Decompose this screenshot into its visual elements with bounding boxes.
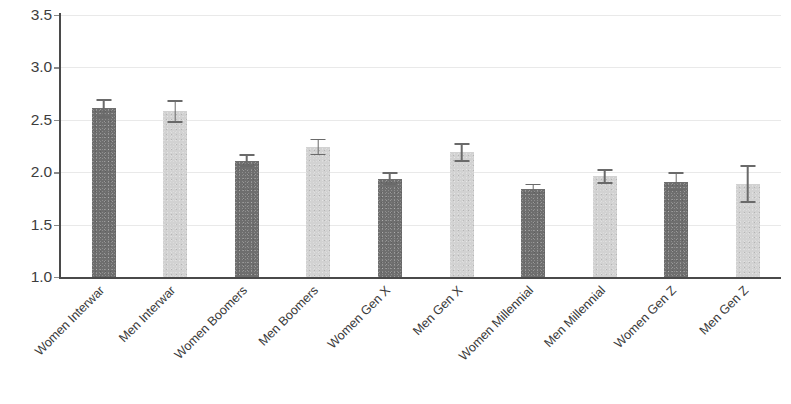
error-bar-cap-bottom (311, 154, 326, 156)
x-axis-label: Women Gen X (326, 284, 393, 351)
error-bar-whisker (676, 172, 678, 191)
bar (163, 111, 187, 277)
error-bar (597, 169, 612, 184)
bar-group (593, 15, 617, 277)
bar (306, 147, 330, 277)
error-bar-cap-top (740, 165, 755, 167)
x-axis-label-text: Men Millennial (542, 284, 608, 350)
error-bar-cap-bottom (239, 165, 254, 167)
y-axis-tick-label: 3.0 (6, 59, 52, 75)
x-axis-label: Women Gen Z (613, 284, 680, 351)
error-bar-cap-top (168, 100, 183, 102)
error-bar (239, 154, 254, 167)
x-axis-label: Men Interwar (117, 284, 178, 345)
bar-group (521, 15, 545, 277)
x-axis-label-text: Women Boomers (172, 284, 250, 362)
error-bar-cap-bottom (382, 183, 397, 185)
error-bar (740, 165, 755, 203)
error-bar (526, 184, 541, 194)
bar (664, 182, 688, 277)
x-axis-label-text: Women Gen Z (613, 284, 680, 351)
bar (521, 189, 545, 277)
error-bar-whisker (103, 99, 105, 118)
error-bar-cap-top (597, 169, 612, 171)
error-bar-cap-top (454, 143, 469, 145)
bar (378, 179, 402, 278)
bar-group (163, 15, 187, 277)
x-axis-label-text: Men Interwar (117, 284, 178, 345)
bar-group (664, 15, 688, 277)
error-bar-cap-top (311, 139, 326, 141)
error-bar-cap-top (669, 172, 684, 174)
x-axis-label: Men Millennial (542, 284, 608, 350)
error-bar-cap-bottom (669, 189, 684, 191)
x-axis-label-text: Women Gen X (326, 284, 393, 351)
x-axis-label-text: Men Gen X (410, 284, 464, 338)
error-bar-cap-bottom (454, 160, 469, 162)
x-axis-label: Women Boomers (172, 284, 250, 362)
error-bar (168, 100, 183, 123)
bar-group (450, 15, 474, 277)
bar (235, 161, 259, 277)
x-axis-label: Men Gen X (410, 284, 464, 338)
error-bar-whisker (174, 100, 176, 123)
y-axis-tick-label: 2.5 (6, 112, 52, 128)
bar-group (736, 15, 760, 277)
x-axis-label-text: Men Boomers (257, 284, 321, 348)
error-bar-whisker (461, 143, 463, 162)
bar (593, 176, 617, 277)
x-axis-line (59, 277, 781, 279)
x-axis-label-text: Men Gen Z (697, 284, 750, 337)
x-axis-label-text: Women Millennial (457, 284, 536, 363)
error-bar (382, 172, 397, 185)
bar-group (92, 15, 116, 277)
y-axis-tick-label: 3.5 (6, 7, 52, 23)
error-bar (96, 99, 111, 118)
error-bar (311, 139, 326, 156)
x-axis-label-text: Women Interwar (32, 284, 106, 358)
error-bar-cap-top (382, 172, 397, 174)
bar-group (235, 15, 259, 277)
bar-group (378, 15, 402, 277)
bar (450, 152, 474, 277)
bar (92, 108, 116, 277)
bars-layer (60, 15, 781, 277)
error-bar-cap-top (526, 184, 541, 186)
error-bar-cap-bottom (597, 182, 612, 184)
x-axis-label: Women Interwar (32, 284, 106, 358)
bar-chart: 3.53.02.52.01.51.0 Women InterwarMen Int… (0, 0, 791, 404)
error-bar-whisker (747, 165, 749, 203)
error-bar (454, 143, 469, 162)
error-bar-cap-bottom (96, 116, 111, 118)
bar-group (306, 15, 330, 277)
error-bar-cap-bottom (740, 201, 755, 203)
y-axis-tick-label: 2.0 (6, 164, 52, 180)
y-axis-tick-label: 1.0 (6, 269, 52, 285)
error-bar-cap-top (96, 99, 111, 101)
x-axis-label: Women Millennial (457, 284, 536, 363)
x-axis-label: Men Boomers (257, 284, 321, 348)
y-axis-tick-label: 1.5 (6, 217, 52, 233)
error-bar-cap-bottom (168, 121, 183, 123)
error-bar-cap-top (239, 154, 254, 156)
error-bar-cap-bottom (526, 193, 541, 195)
x-axis-label: Men Gen Z (697, 284, 750, 337)
error-bar (669, 172, 684, 191)
